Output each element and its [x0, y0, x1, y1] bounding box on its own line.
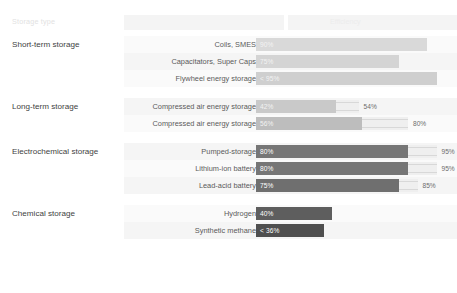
- bar-max-label: 80%: [413, 120, 426, 127]
- bar-range-extension: [408, 162, 437, 175]
- bar-track: 75%85%: [256, 179, 446, 192]
- group-separator: [124, 199, 457, 200]
- bar-track: 80%95%: [256, 162, 446, 175]
- bar-value-label: 75%: [260, 58, 274, 65]
- efficiency-bar-chart: Storage typeEfficiencyShort-term storage…: [0, 0, 457, 293]
- bar-range-extension: [399, 179, 418, 192]
- header-band-left: [124, 15, 284, 30]
- chart-row[interactable]: Compressed air energy storage42%54%: [0, 98, 457, 115]
- chart-row[interactable]: Coils, SMES90%: [0, 36, 457, 53]
- bar-track: 90%: [256, 38, 446, 51]
- bar-track: 56%80%: [256, 117, 446, 130]
- bar-segment: 80%: [256, 145, 408, 158]
- row-label: Flywheel energy storage: [175, 74, 256, 83]
- bar-max-label: 95%: [442, 148, 455, 155]
- bar-max-label: 95%: [442, 165, 455, 172]
- bar-track: 80%95%: [256, 145, 446, 158]
- bar-segment: 56%: [256, 117, 362, 130]
- chart-row[interactable]: Hydrogen40%: [0, 205, 457, 222]
- bar-segment: 90%: [256, 38, 427, 51]
- row-label: Coils, SMES: [215, 40, 256, 49]
- group-separator: [124, 92, 457, 93]
- bar-segment: 75%: [256, 55, 399, 68]
- bar-track: 40%: [256, 207, 446, 220]
- chart-row[interactable]: Flywheel energy storage< 95%: [0, 70, 457, 87]
- table-header-row: Storage typeEfficiency: [0, 15, 457, 30]
- bar-segment: 80%: [256, 162, 408, 175]
- chart-row[interactable]: Lead-acid battery75%85%: [0, 177, 457, 194]
- bar-value-label: 40%: [260, 210, 274, 217]
- bar-range-extension: [408, 145, 437, 158]
- bar-track: < 95%: [256, 72, 446, 85]
- bar-value-label: < 36%: [260, 227, 279, 234]
- bar-max-label: 54%: [364, 103, 377, 110]
- row-label: Synthetic methane: [195, 226, 256, 235]
- bar-segment: 75%: [256, 179, 399, 192]
- bar-track: 42%54%: [256, 100, 446, 113]
- bar-track: < 36%: [256, 224, 446, 237]
- chart-row[interactable]: Pumped-storage80%95%: [0, 143, 457, 160]
- row-label: Compressed air energy storage: [152, 119, 256, 128]
- row-label: Pumped-storage: [201, 147, 256, 156]
- bar-value-label: 56%: [260, 120, 274, 127]
- bar-range-extension: [336, 100, 359, 113]
- bar-value-label: 80%: [260, 148, 274, 155]
- header-efficiency: Efficiency: [330, 17, 361, 26]
- bar-segment: < 95%: [256, 72, 437, 85]
- bar-segment: < 36%: [256, 224, 324, 237]
- bar-value-label: 75%: [260, 182, 274, 189]
- chart-row[interactable]: Lithium-ion battery80%95%: [0, 160, 457, 177]
- chart-row[interactable]: Compressed air energy storage56%80%: [0, 115, 457, 132]
- bar-value-label: 90%: [260, 41, 274, 48]
- header-band-right: [288, 15, 457, 30]
- chart-row[interactable]: Capacitators, Super Caps75%: [0, 53, 457, 70]
- bar-segment: 42%: [256, 100, 336, 113]
- row-label: Lead-acid battery: [199, 181, 256, 190]
- bar-track: 75%: [256, 55, 446, 68]
- bar-range-extension: [362, 117, 408, 130]
- bar-value-label: 42%: [260, 103, 274, 110]
- row-label: Hydrogen: [224, 209, 256, 218]
- bar-value-label: < 95%: [260, 75, 279, 82]
- chart-row[interactable]: Synthetic methane< 36%: [0, 222, 457, 239]
- group-separator: [124, 137, 457, 138]
- row-label: Capacitators, Super Caps: [171, 57, 256, 66]
- row-label: Compressed air energy storage: [152, 102, 256, 111]
- row-label: Lithium-ion battery: [195, 164, 256, 173]
- bar-max-label: 85%: [423, 182, 436, 189]
- bar-segment: 40%: [256, 207, 332, 220]
- bar-value-label: 80%: [260, 165, 274, 172]
- header-storage-type: Storage type: [12, 17, 55, 26]
